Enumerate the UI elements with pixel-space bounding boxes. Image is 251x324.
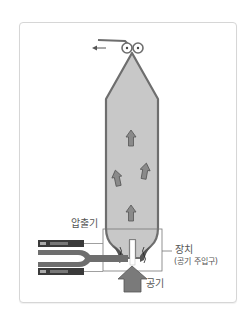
roller-icon	[122, 43, 143, 53]
film-bubble	[106, 53, 158, 258]
extruder-heater-lower	[38, 268, 84, 275]
extruder-heater-upper	[38, 240, 84, 247]
air-inlet-arrow	[118, 266, 147, 292]
blown-film-diagram	[0, 0, 251, 324]
arrow-left-icon	[92, 46, 106, 51]
extruder-label: 압출기	[71, 219, 98, 229]
device-label: 장치	[175, 245, 193, 255]
extruder-feed-pipe	[38, 250, 128, 267]
air-label: 공기	[146, 279, 164, 289]
device-sublabel: (공기 주입구)	[174, 258, 218, 266]
